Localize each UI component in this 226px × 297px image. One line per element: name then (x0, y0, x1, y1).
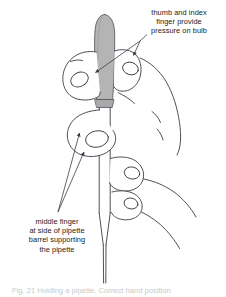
annotation-line: barrel supporting (8, 235, 106, 244)
thumb-index-annotation: thumb and index finger provide pressure … (134, 8, 224, 36)
annotation-line: thumb and index (134, 8, 224, 17)
pipette-diagram-figure: thumb and index finger provide pressure … (0, 0, 226, 297)
annotation-line: at side of pipette (8, 226, 106, 235)
middle-finger-annotation: middle finger at side of pipette barrel … (8, 217, 106, 254)
annotation-line: the pipette (8, 245, 106, 254)
hand-web-crease (118, 93, 135, 104)
annotation-line: finger provide (134, 17, 224, 26)
leader-line-middle-finger-lower (58, 152, 84, 212)
hand-knuckle-crease-2 (157, 129, 163, 140)
hand-back-contour (140, 58, 181, 155)
annotation-line: pressure on bulb (134, 26, 224, 35)
figure-caption: Fig. 21 Holding a pipette. Correct hand … (12, 286, 218, 295)
annotation-line: middle finger (8, 217, 106, 226)
leader-line-middle-finger-upper (58, 133, 80, 212)
pipette-taper-right (106, 213, 110, 245)
bulb-collar (95, 100, 114, 108)
hand-knuckle-crease-1 (152, 112, 161, 123)
hand-wrist-contour (144, 179, 197, 217)
hand-lower-palm-contour (142, 212, 180, 249)
